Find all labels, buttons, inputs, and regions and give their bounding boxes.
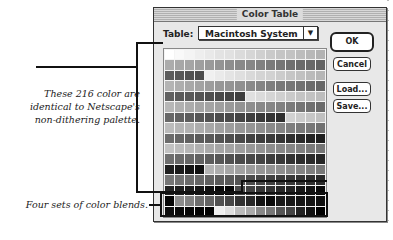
- color-swatch[interactable]: [316, 71, 325, 80]
- color-swatch[interactable]: [246, 50, 255, 59]
- color-swatch[interactable]: [316, 50, 325, 59]
- color-swatch[interactable]: [165, 113, 174, 122]
- color-swatch[interactable]: [286, 81, 295, 90]
- color-swatch[interactable]: [195, 92, 204, 101]
- color-swatch[interactable]: [185, 50, 194, 59]
- color-swatch[interactable]: [316, 134, 325, 143]
- color-swatch[interactable]: [185, 60, 194, 69]
- color-swatch[interactable]: [175, 50, 184, 59]
- color-swatch[interactable]: [205, 102, 214, 111]
- color-swatch[interactable]: [235, 102, 244, 111]
- color-swatch[interactable]: [175, 175, 184, 184]
- color-swatch[interactable]: [246, 154, 255, 163]
- color-swatch[interactable]: [215, 102, 224, 111]
- color-swatch[interactable]: [266, 144, 275, 153]
- color-swatch[interactable]: [266, 92, 275, 101]
- color-swatch[interactable]: [296, 165, 305, 174]
- color-swatch[interactable]: [175, 154, 184, 163]
- color-swatch[interactable]: [235, 144, 244, 153]
- color-swatch[interactable]: [185, 134, 194, 143]
- color-swatch[interactable]: [286, 134, 295, 143]
- color-swatch[interactable]: [286, 102, 295, 111]
- color-swatch[interactable]: [175, 165, 184, 174]
- color-swatch[interactable]: [256, 165, 265, 174]
- color-swatch[interactable]: [286, 123, 295, 132]
- color-swatch[interactable]: [256, 60, 265, 69]
- color-swatch[interactable]: [175, 144, 184, 153]
- color-swatch[interactable]: [195, 50, 204, 59]
- color-swatch[interactable]: [246, 92, 255, 101]
- color-swatch[interactable]: [276, 165, 285, 174]
- color-swatch[interactable]: [306, 123, 315, 132]
- color-swatch[interactable]: [215, 165, 224, 174]
- color-swatch[interactable]: [205, 144, 214, 153]
- color-swatch[interactable]: [235, 123, 244, 132]
- color-swatch[interactable]: [225, 50, 234, 59]
- color-swatch[interactable]: [276, 113, 285, 122]
- color-swatch[interactable]: [205, 175, 214, 184]
- color-swatch[interactable]: [316, 113, 325, 122]
- color-swatch[interactable]: [165, 81, 174, 90]
- color-swatch[interactable]: [266, 71, 275, 80]
- color-swatch[interactable]: [175, 81, 184, 90]
- color-swatch[interactable]: [306, 81, 315, 90]
- cancel-button[interactable]: Cancel: [333, 57, 371, 71]
- color-swatch[interactable]: [205, 154, 214, 163]
- color-swatch[interactable]: [235, 154, 244, 163]
- color-swatch[interactable]: [276, 71, 285, 80]
- color-swatch[interactable]: [276, 102, 285, 111]
- color-swatch[interactable]: [246, 113, 255, 122]
- color-swatch[interactable]: [175, 123, 184, 132]
- color-swatch[interactable]: [286, 50, 295, 59]
- color-swatch[interactable]: [316, 102, 325, 111]
- color-swatch[interactable]: [286, 92, 295, 101]
- color-swatch[interactable]: [246, 71, 255, 80]
- color-swatch[interactable]: [286, 113, 295, 122]
- color-swatch[interactable]: [175, 92, 184, 101]
- color-swatch[interactable]: [225, 60, 234, 69]
- color-swatch[interactable]: [316, 144, 325, 153]
- color-swatch[interactable]: [266, 165, 275, 174]
- save-button[interactable]: Save...: [333, 99, 371, 113]
- color-swatch[interactable]: [235, 60, 244, 69]
- color-swatch[interactable]: [246, 144, 255, 153]
- color-swatch[interactable]: [225, 165, 234, 174]
- color-swatch[interactable]: [296, 71, 305, 80]
- color-swatch[interactable]: [175, 113, 184, 122]
- color-swatch[interactable]: [286, 71, 295, 80]
- color-swatch[interactable]: [246, 134, 255, 143]
- color-swatch[interactable]: [276, 92, 285, 101]
- color-swatch[interactable]: [235, 113, 244, 122]
- color-swatch[interactable]: [165, 60, 174, 69]
- color-swatch[interactable]: [246, 102, 255, 111]
- color-swatch[interactable]: [246, 60, 255, 69]
- color-swatch[interactable]: [266, 113, 275, 122]
- color-swatch[interactable]: [205, 71, 214, 80]
- color-swatch[interactable]: [316, 81, 325, 90]
- color-swatch[interactable]: [215, 175, 224, 184]
- color-swatch[interactable]: [185, 71, 194, 80]
- color-swatch[interactable]: [286, 60, 295, 69]
- color-swatch[interactable]: [225, 134, 234, 143]
- color-swatch[interactable]: [306, 60, 315, 69]
- color-swatch[interactable]: [296, 92, 305, 101]
- color-swatch[interactable]: [256, 113, 265, 122]
- color-swatch[interactable]: [316, 154, 325, 163]
- color-swatch[interactable]: [175, 102, 184, 111]
- color-swatch[interactable]: [316, 165, 325, 174]
- color-swatch[interactable]: [306, 134, 315, 143]
- color-swatch[interactable]: [205, 113, 214, 122]
- color-swatch[interactable]: [185, 92, 194, 101]
- color-swatch[interactable]: [256, 102, 265, 111]
- color-swatch[interactable]: [235, 71, 244, 80]
- color-swatch[interactable]: [296, 134, 305, 143]
- color-swatch[interactable]: [266, 102, 275, 111]
- color-swatch[interactable]: [316, 92, 325, 101]
- color-swatch[interactable]: [215, 144, 224, 153]
- color-swatch[interactable]: [215, 60, 224, 69]
- color-swatch[interactable]: [195, 144, 204, 153]
- color-swatch[interactable]: [235, 165, 244, 174]
- color-swatch[interactable]: [205, 50, 214, 59]
- color-swatch[interactable]: [225, 113, 234, 122]
- color-swatch[interactable]: [185, 102, 194, 111]
